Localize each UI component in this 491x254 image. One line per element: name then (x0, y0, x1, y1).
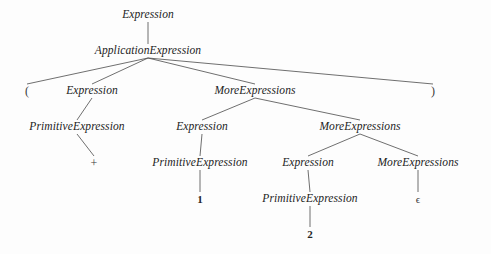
tree-node-expression: Expression (122, 9, 174, 21)
tree-edge (255, 98, 360, 120)
tree-edge (360, 134, 418, 156)
tree-node-moreexpressions: MoreExpressions (214, 85, 295, 97)
tree-node-: + (91, 157, 98, 169)
tree-node-primitiveexpression: PrimitiveExpression (262, 193, 357, 205)
tree-edge (202, 98, 255, 120)
tree-node-: ( (25, 85, 29, 97)
tree-edge (27, 58, 148, 84)
tree-node-expression: Expression (282, 157, 334, 169)
parse-tree-figure: ExpressionApplicationExpression(Expressi… (0, 0, 491, 254)
tree-edge (308, 170, 310, 192)
tree-edge (77, 134, 94, 156)
tree-edge (92, 58, 148, 84)
tree-node-primitiveexpression: PrimitiveExpression (152, 157, 247, 169)
tree-edge (77, 98, 92, 120)
tree-edge (148, 58, 433, 84)
tree-node-moreexpressions: MoreExpressions (319, 121, 400, 133)
tree-node-primitiveexpression: PrimitiveExpression (29, 121, 124, 133)
tree-edge (148, 58, 255, 84)
tree-node-1: 1 (197, 194, 203, 205)
tree-node-2: 2 (307, 229, 313, 240)
tree-node-moreexpressions: MoreExpressions (377, 157, 458, 169)
tree-node-expression: Expression (66, 85, 118, 97)
tree-node-: ) (431, 85, 435, 97)
tree-node-applicationexpression: ApplicationExpression (95, 45, 201, 57)
tree-edge (200, 134, 202, 156)
tree-node-: ϵ (416, 194, 421, 205)
tree-node-expression: Expression (176, 121, 228, 133)
tree-edge (308, 134, 360, 156)
